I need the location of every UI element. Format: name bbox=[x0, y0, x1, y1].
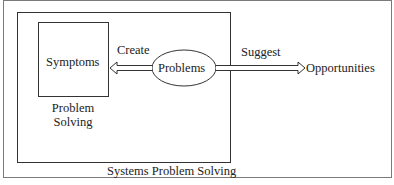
symptoms-label: Symptoms bbox=[46, 55, 100, 69]
suggest-label: Suggest bbox=[241, 45, 281, 59]
systems-problem-solving-box bbox=[18, 13, 231, 163]
opportunities-label: Opportunities bbox=[306, 61, 375, 75]
suggest-arrow bbox=[216, 62, 305, 74]
create-arrow bbox=[110, 62, 152, 74]
systems-problem-solving-caption: Systems Problem Solving bbox=[107, 164, 236, 178]
diagram-canvas bbox=[0, 0, 394, 185]
problems-label: Problems bbox=[158, 61, 205, 75]
problem-solving-caption-line1: Problem bbox=[38, 101, 108, 115]
problem-solving-caption-line2: Solving bbox=[38, 115, 108, 129]
create-label: Create bbox=[117, 43, 150, 57]
outer-frame bbox=[4, 1, 392, 178]
